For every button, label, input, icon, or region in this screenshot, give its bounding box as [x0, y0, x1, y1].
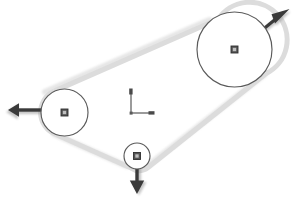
- belt-segment-bottom: [56, 135, 132, 169]
- pulley-large-hub-marker: [231, 46, 238, 53]
- belt-segment-right: [148, 74, 266, 168]
- diagram-canvas: [0, 0, 299, 200]
- belt-segment-upper: [54, 19, 218, 91]
- axis-x-head: [149, 111, 155, 114]
- pulley-small[interactable]: [124, 143, 150, 169]
- axis-origin-marker: [130, 112, 133, 115]
- axis-y-head: [129, 89, 132, 95]
- pulley-medium[interactable]: [41, 89, 88, 136]
- pulley-belt-diagram: [0, 0, 299, 200]
- pulley-large[interactable]: [197, 12, 272, 87]
- coordinate-axes: [129, 89, 154, 115]
- pulley-small-hub-marker: [134, 153, 141, 160]
- pulley-medium-hub-marker: [61, 109, 68, 116]
